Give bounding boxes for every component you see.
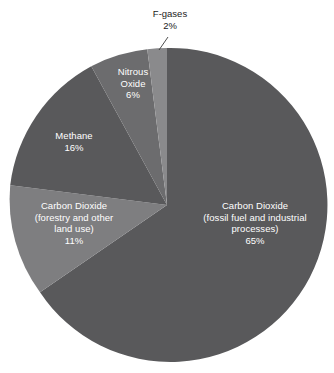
pie-label-f-gases-name: F-gases [122,8,218,20]
pie-chart: F-gases 2% Nitrous Oxide 6% Methane 16% … [0,0,334,373]
pie-label-f-gases-value: 2% [122,20,218,32]
pie-label-f-gases: F-gases 2% [122,8,218,31]
pie-chart-graphic [0,0,334,373]
